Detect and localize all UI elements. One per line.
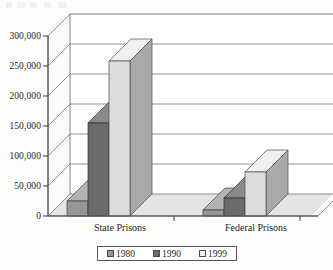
y-tick-label-50000: 50,000 [0,181,41,191]
y-tick-label-100000: 100,000 [0,151,41,161]
legend-item-1990[interactable]: 1990 [153,249,181,259]
legend-label-1990: 1990 [162,249,181,259]
legend-label-1999: 1999 [208,249,227,259]
chart-figure: 300,000 250,000 200,000 150,000 100,000 … [0,0,333,270]
x-category-label-federal-prisons: Federal Prisons [196,222,316,233]
y-tick-label-0: 0 [0,211,41,221]
legend-swatch-1999 [199,250,206,257]
y-tick-label-200000: 200,000 [0,91,41,101]
chart-legend: 1980 1990 1999 [97,246,237,261]
y-tick-label-150000: 150,000 [0,121,41,131]
y-tick-label-300000: 300,000 [0,31,41,41]
legend-item-1980[interactable]: 1980 [107,249,135,259]
legend-swatch-1990 [153,250,160,257]
y-tick-label-250000: 250,000 [0,61,41,71]
bar-state-1999 [109,39,152,216]
legend-swatch-1980 [107,250,114,257]
x-category-label-state-prisons: State Prisons [60,222,180,233]
legend-label-1980: 1980 [116,249,135,259]
legend-item-1999[interactable]: 1999 [199,249,227,259]
